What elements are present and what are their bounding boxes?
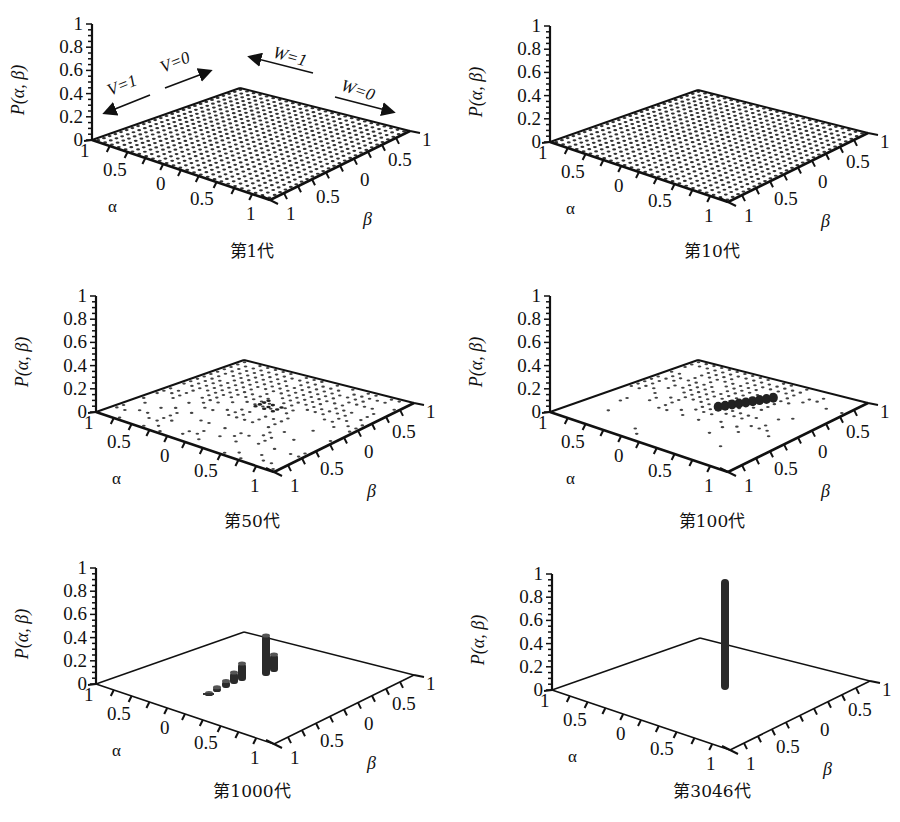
z-tick-label: 0.8 xyxy=(517,308,541,329)
z-axis-label: P(α, β) xyxy=(8,65,29,116)
alpha-axis-label: α xyxy=(566,469,575,488)
z-tick-label: 0.4 xyxy=(519,633,543,654)
z-axis-label: P(α, β) xyxy=(466,67,487,118)
alpha-tick-label: 0 xyxy=(614,445,624,466)
beta-axis-label: β xyxy=(366,753,376,773)
panel-caption: 第10代 xyxy=(612,237,812,262)
z-tick-label: 0.4 xyxy=(59,83,83,104)
panel-gen50: 10.80.60.40.20P(α, β)10.500.51α10.500.51… xyxy=(0,270,450,540)
alpha-tick-label: 1 xyxy=(538,142,548,163)
panel-caption: 第1代 xyxy=(152,237,352,262)
alpha-tick-label: 0 xyxy=(614,175,624,196)
beta-tick-label: 0.5 xyxy=(846,151,870,172)
beta-axis-label: β xyxy=(820,481,830,501)
beta-tick-label: 0.5 xyxy=(388,149,412,170)
plot-3d-gen1: 10.80.60.40.20P(α, β)10.500.51α10.500.51… xyxy=(0,0,450,270)
z-tick-label: 0.8 xyxy=(59,36,83,57)
beta-tick-label: 0 xyxy=(820,719,830,740)
z-tick-label: 0.6 xyxy=(517,331,541,352)
alpha-axis-label: α xyxy=(112,469,121,488)
beta-axis-label: β xyxy=(822,759,832,779)
alpha-tick-label: 0.5 xyxy=(563,709,587,730)
plot-3d-gen50: 10.80.60.40.20P(α, β)10.500.51α10.500.51… xyxy=(0,270,450,540)
panel-gen100: 10.80.60.40.20P(α, β)10.500.51α10.500.51… xyxy=(450,270,900,540)
alpha-tick-label: 0 xyxy=(160,717,170,738)
alpha-tick-label: 0.5 xyxy=(194,732,218,753)
plot-3d-gen100: 10.80.60.40.20P(α, β)10.500.51α10.500.51… xyxy=(450,270,900,540)
figure-caption-clipped xyxy=(150,812,750,822)
z-tick-label: 0.2 xyxy=(519,656,543,677)
z-tick-label: 0.2 xyxy=(517,378,541,399)
alpha-tick-label: 1 xyxy=(250,747,260,768)
beta-tick-label: 1 xyxy=(746,753,756,774)
alpha-tick-label: 0.5 xyxy=(561,161,585,182)
alpha-axis-label: α xyxy=(566,199,575,218)
beta-tick-label: 0.5 xyxy=(392,693,416,714)
beta-tick-label: 0 xyxy=(818,171,828,192)
z-tick-label: 0.8 xyxy=(63,308,87,329)
beta-tick-label: 1 xyxy=(880,131,890,152)
z-tick-label: 0.2 xyxy=(59,106,83,127)
alpha-tick-label: 1 xyxy=(84,684,94,705)
beta-tick-label: 0.5 xyxy=(320,458,344,479)
z-tick-label: 0.4 xyxy=(517,85,541,106)
plot-3d-gen3046: 10.80.60.40.20P(α, β)10.500.51α10.500.51… xyxy=(450,540,900,810)
z-tick-label: 1 xyxy=(78,557,88,578)
panel-caption: 第1000代 xyxy=(152,777,352,802)
beta-axis-label: β xyxy=(820,211,830,231)
z-tick-label: 0.6 xyxy=(63,603,87,624)
panel-caption: 第100代 xyxy=(612,507,812,532)
alpha-tick-label: 0.5 xyxy=(190,188,214,209)
alpha-tick-label: 0.5 xyxy=(107,703,131,724)
alpha-tick-label: 0.5 xyxy=(650,738,674,759)
alpha-tick-label: 1 xyxy=(250,475,260,496)
beta-tick-label: 0 xyxy=(364,713,374,734)
beta-tick-label: 0.5 xyxy=(774,458,798,479)
alpha-tick-label: 1 xyxy=(246,203,256,224)
beta-tick-label: 0.5 xyxy=(316,186,340,207)
alpha-tick-label: 1 xyxy=(84,412,94,433)
alpha-tick-label: 1 xyxy=(540,690,550,711)
alpha-tick-label: 0 xyxy=(160,445,170,466)
alpha-tick-label: 1 xyxy=(704,205,714,226)
alpha-tick-label: 1 xyxy=(704,475,714,496)
beta-tick-label: 1 xyxy=(290,747,300,768)
alpha-tick-label: 1 xyxy=(80,140,90,161)
alpha-axis-label: α xyxy=(108,197,117,216)
beta-tick-label: 1 xyxy=(286,203,296,224)
beta-tick-label: 0 xyxy=(364,441,374,462)
w1-label: W=1 xyxy=(271,43,309,71)
z-tick-label: 0.6 xyxy=(63,331,87,352)
z-tick-label: 0.4 xyxy=(63,627,87,648)
beta-tick-label: 0.5 xyxy=(846,421,870,442)
alpha-tick-label: 0 xyxy=(156,173,166,194)
z-tick-label: 0.2 xyxy=(517,108,541,129)
alpha-tick-label: 0.5 xyxy=(103,159,127,180)
alpha-tick-label: 0.5 xyxy=(648,190,672,211)
z-tick-label: 0.8 xyxy=(517,38,541,59)
z-tick-label: 0.2 xyxy=(63,650,87,671)
z-axis-label: P(α, β) xyxy=(468,615,489,666)
panel-caption: 第3046代 xyxy=(612,777,812,802)
v1-label: V=1 xyxy=(104,71,139,100)
z-tick-label: 0.6 xyxy=(519,609,543,630)
alpha-axis-label: α xyxy=(568,747,577,766)
z-tick-label: 0.4 xyxy=(517,355,541,376)
beta-tick-label: 1 xyxy=(426,401,436,422)
beta-tick-label: 0 xyxy=(360,169,370,190)
beta-axis-label: β xyxy=(366,481,376,501)
beta-tick-label: 0.5 xyxy=(776,736,800,757)
alpha-tick-label: 0.5 xyxy=(194,460,218,481)
beta-tick-label: 1 xyxy=(426,673,436,694)
z-tick-label: 0.4 xyxy=(63,355,87,376)
panel-gen1: 10.80.60.40.20P(α, β)10.500.51α10.500.51… xyxy=(0,0,450,270)
alpha-tick-label: 0.5 xyxy=(561,431,585,452)
alpha-tick-label: 0.5 xyxy=(107,431,131,452)
beta-axis-label: β xyxy=(362,209,372,229)
z-tick-label: 0.8 xyxy=(519,586,543,607)
panel-gen3046: 10.80.60.40.20P(α, β)10.500.51α10.500.51… xyxy=(450,540,900,810)
panel-gen10: 10.80.60.40.20P(α, β)10.500.51α10.500.51… xyxy=(450,0,900,270)
beta-tick-label: 0.5 xyxy=(392,421,416,442)
z-axis-label: P(α, β) xyxy=(12,609,33,660)
beta-tick-label: 1 xyxy=(880,401,890,422)
